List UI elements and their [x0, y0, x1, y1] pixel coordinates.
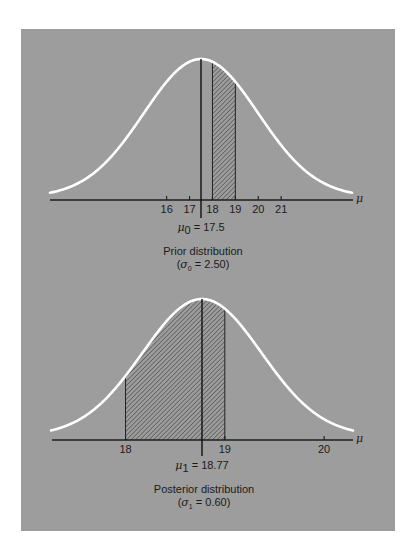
x-tick-label: 21	[275, 203, 287, 215]
posterior-caption: Posterior distribution	[154, 483, 254, 495]
x-tick-label: 19	[229, 203, 241, 215]
prior-caption: Prior distribution	[163, 245, 242, 257]
posterior-sigma-label: (σ1 = 0.60)	[178, 496, 231, 510]
x-tick-label: 18	[206, 203, 218, 215]
posterior-axis-label-mu: μ	[356, 432, 363, 445]
bayesian-prior-posterior-figure: 161718192021 μ μ0 = 17.5 Prior distribut…	[0, 0, 414, 559]
x-tick-label: 18	[119, 443, 131, 455]
prior-sigma-label: (σ0 = 2.50)	[177, 258, 230, 272]
x-tick-label: 19	[219, 443, 231, 455]
figure-panel	[21, 29, 395, 531]
prior-shaded-interval	[212, 62, 235, 200]
x-tick-label: 20	[252, 203, 264, 215]
prior-axis-label-mu: μ	[356, 192, 363, 205]
x-tick-label: 16	[161, 203, 173, 215]
x-tick-label: 20	[318, 443, 330, 455]
x-tick-label: 17	[183, 203, 195, 215]
